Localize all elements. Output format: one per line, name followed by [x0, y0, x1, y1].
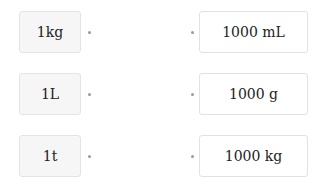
left-item-1[interactable]: 1kg	[19, 11, 81, 53]
right-item-label: 1000 mL	[222, 24, 285, 40]
right-connector-dot-3[interactable]	[191, 155, 194, 158]
right-item-label: 1000 kg	[225, 148, 283, 164]
left-item-label: 1t	[43, 148, 58, 164]
right-connector-dot-2[interactable]	[191, 93, 194, 96]
left-connector-dot-2[interactable]	[88, 93, 91, 96]
left-item-label: 1L	[41, 86, 59, 102]
right-item-3[interactable]: 1000 kg	[199, 135, 308, 177]
right-item-2[interactable]: 1000 g	[199, 73, 308, 115]
right-item-1[interactable]: 1000 mL	[199, 11, 308, 53]
left-connector-dot-1[interactable]	[88, 31, 91, 34]
left-connector-dot-3[interactable]	[88, 155, 91, 158]
right-item-label: 1000 g	[229, 86, 278, 102]
left-item-3[interactable]: 1t	[19, 135, 81, 177]
right-connector-dot-1[interactable]	[191, 31, 194, 34]
left-item-2[interactable]: 1L	[19, 73, 81, 115]
left-item-label: 1kg	[37, 24, 63, 40]
